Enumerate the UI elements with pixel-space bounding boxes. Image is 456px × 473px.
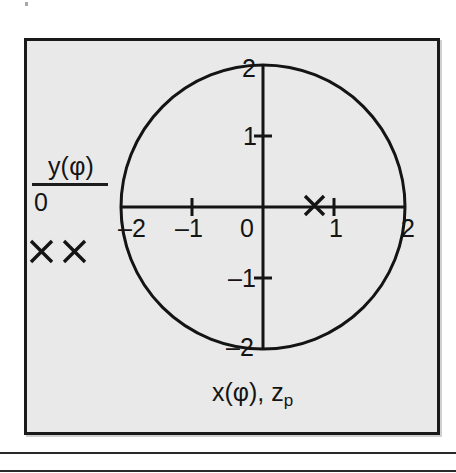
page-separator-rule-2 xyxy=(0,470,456,472)
x-tick-label-zero: 0 xyxy=(240,216,254,241)
y-axis-label-rule xyxy=(32,183,108,186)
legend-markers xyxy=(28,236,112,270)
figure-page: y(φ) 0 –2 –1 0 1 2 2 1 –1 –2 x(φ), zp xyxy=(0,0,456,473)
marker-x-right xyxy=(64,241,85,262)
scan-artifact-speck xyxy=(25,2,28,6)
x-tick-label-neg2: –2 xyxy=(118,216,146,241)
page-separator-rule-1 xyxy=(0,452,456,454)
x-axis-caption: x(φ), zp xyxy=(212,378,293,411)
x-axis-caption-subscript: p xyxy=(284,391,293,410)
y-tick-label-pos2: 2 xyxy=(242,56,256,81)
x-axis-caption-main: x(φ), z xyxy=(212,378,284,406)
y-tick-label-neg1: –1 xyxy=(228,266,256,291)
x-tick-label-pos1: 1 xyxy=(329,216,343,241)
x-tick-label-pos2: 2 xyxy=(401,216,415,241)
y-axis-label-numerator: y(φ) xyxy=(32,152,110,180)
y-axis-label-denominator: 0 xyxy=(32,189,110,217)
y-axis-label: y(φ) 0 xyxy=(32,152,110,217)
y-tick-label-pos1: 1 xyxy=(243,124,257,149)
marker-x-left xyxy=(31,241,52,262)
y-tick-label-neg2: –2 xyxy=(226,335,254,360)
x-tick-label-neg1: –1 xyxy=(175,216,203,241)
